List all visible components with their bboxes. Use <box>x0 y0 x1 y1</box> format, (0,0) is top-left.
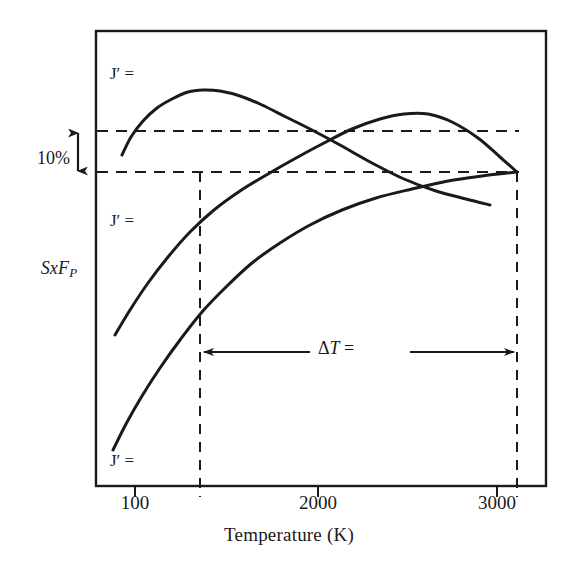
y-axis-title-subscript: P <box>69 265 77 280</box>
y-axis-title: SxFP <box>26 258 92 281</box>
J-prime-curve-top <box>122 90 490 205</box>
delta-symbol: Δ <box>318 338 330 358</box>
delta-t-equals: = <box>344 338 354 358</box>
x-tick-label-100: 100 <box>95 492 175 514</box>
J-prime-curve-bottom <box>113 172 517 450</box>
plot-frame <box>96 31 546 486</box>
frame-rect <box>96 31 546 486</box>
x-tick-label-3000: 3000 <box>457 492 537 514</box>
J-prime-curve-middle <box>115 113 517 335</box>
chart-figure: 100 2000 3000 Temperature (K) SxFP 10% Δ… <box>0 0 578 570</box>
x-axis-title: Temperature (K) <box>0 524 578 546</box>
chart-plot-area <box>0 0 578 570</box>
y-axis-title-main: SxF <box>41 258 70 278</box>
x-tick-label-2000: 2000 <box>278 492 358 514</box>
percent-label: 10% <box>20 148 70 169</box>
vertical-reference-lines <box>200 172 517 497</box>
curve-label-top: J′ = <box>110 64 134 84</box>
delta-t-variable: T <box>330 338 340 358</box>
data-curves <box>113 90 517 450</box>
curve-label-bottom: J′ = <box>110 451 134 471</box>
delta-t-label: ΔT = <box>318 338 354 359</box>
curve-label-middle: J′ = <box>110 211 134 231</box>
